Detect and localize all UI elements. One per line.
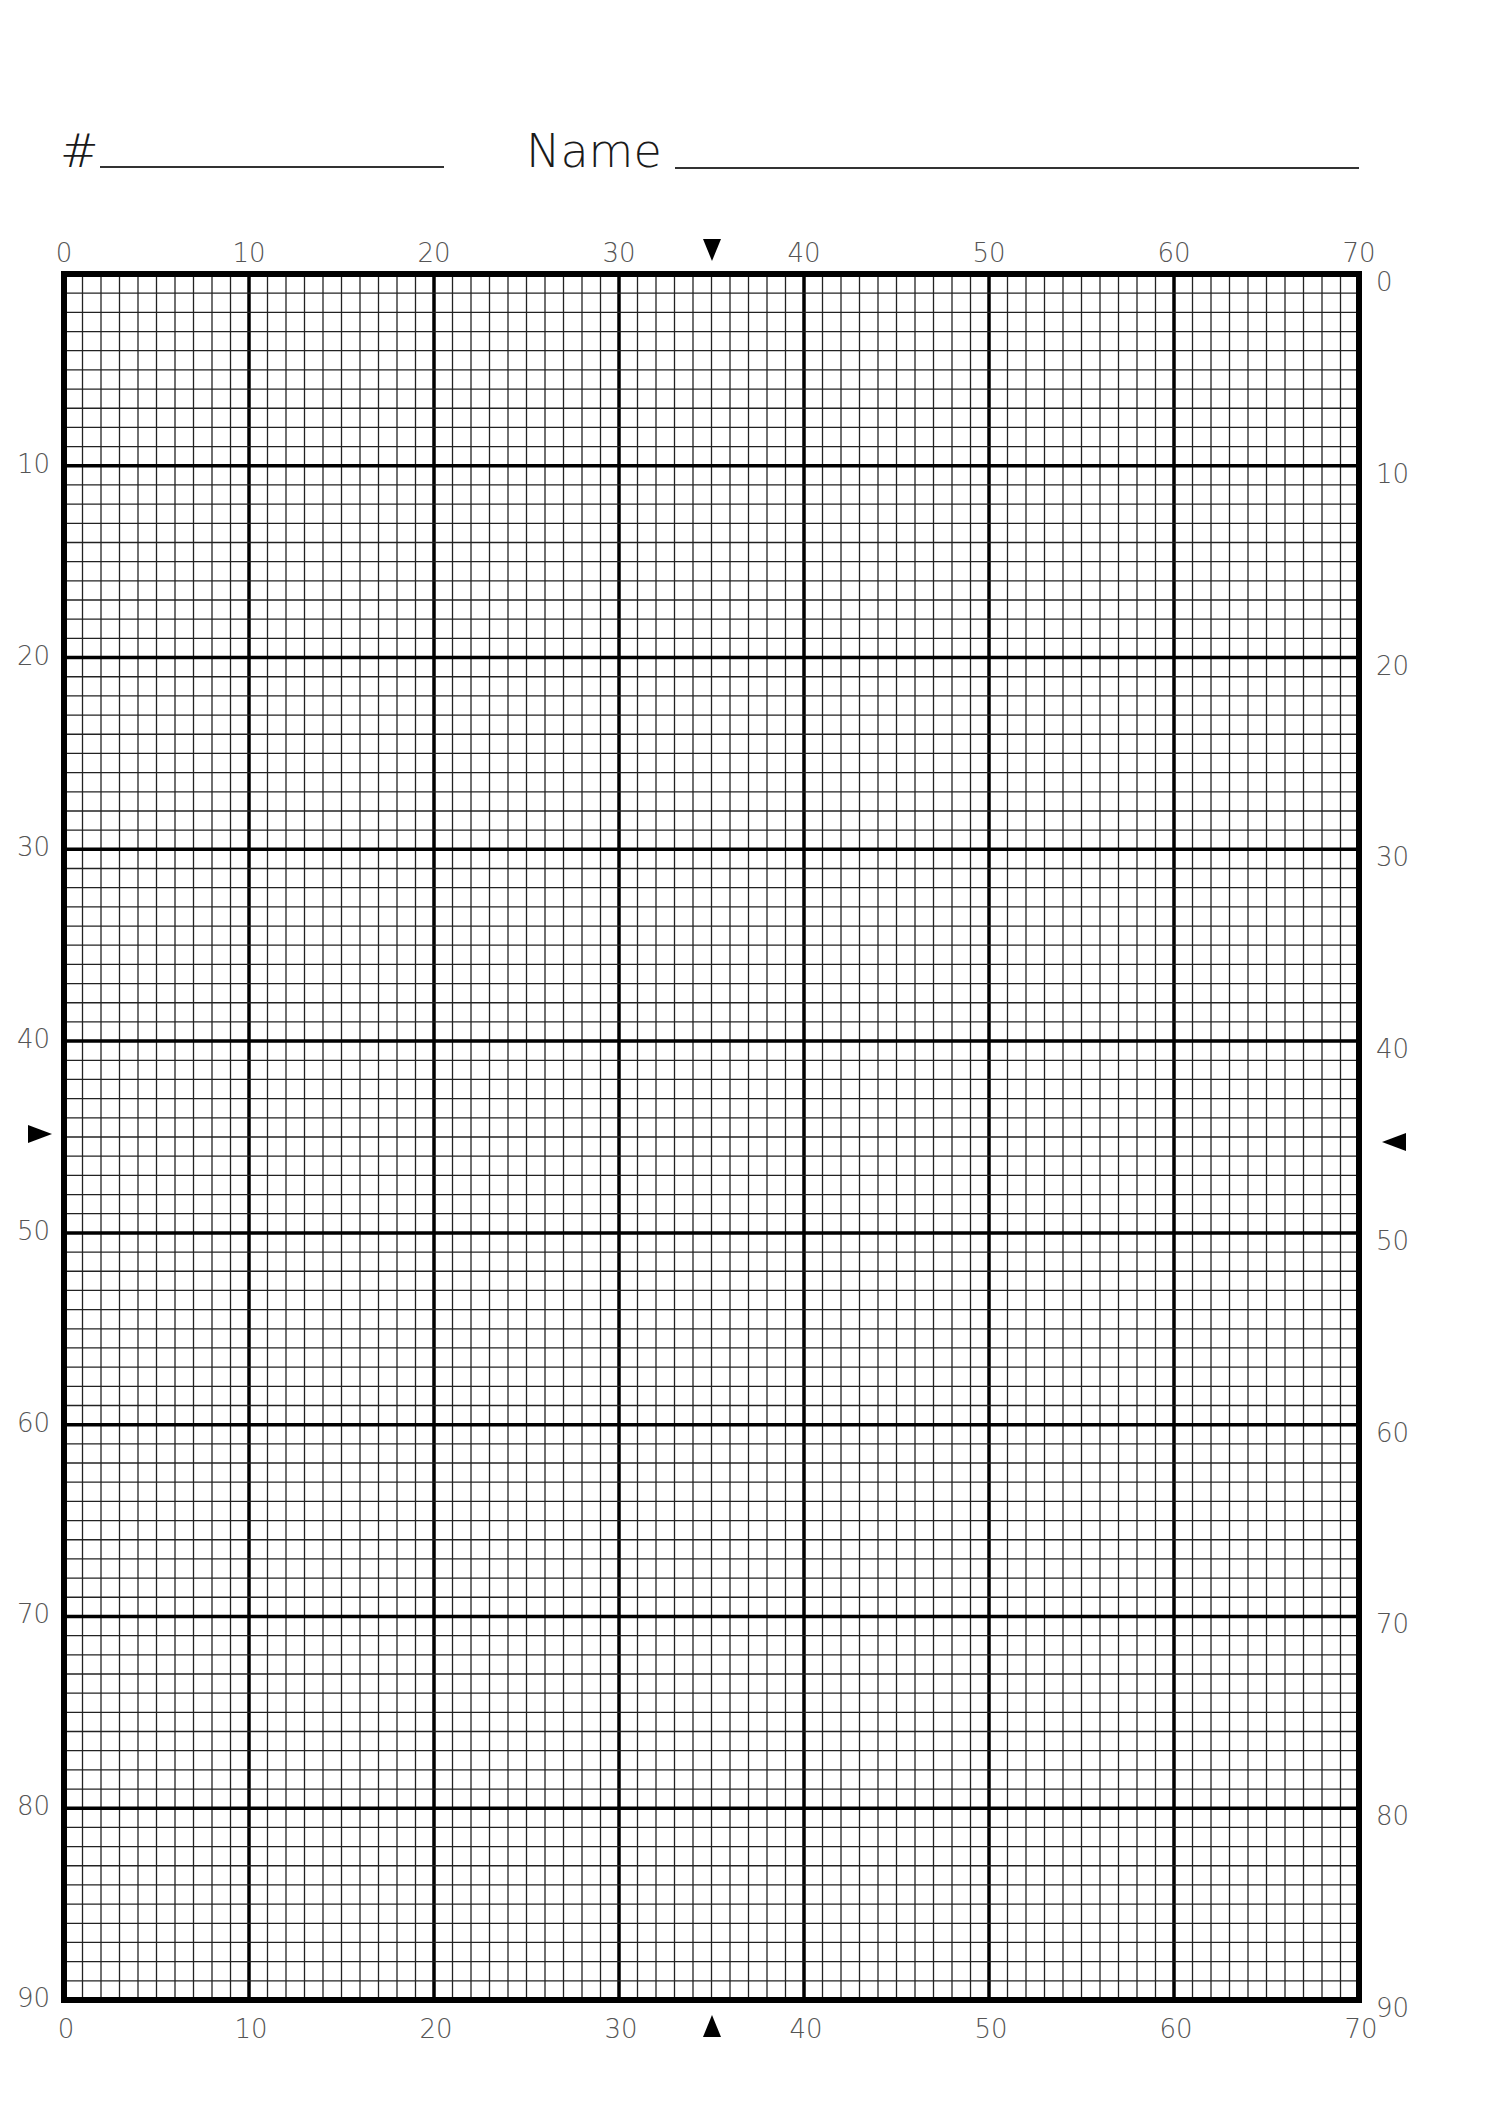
right-axis-label: 40 bbox=[1376, 1036, 1409, 1062]
top-axis-label: 50 bbox=[972, 240, 1005, 266]
top-axis-label: 40 bbox=[787, 240, 820, 266]
right-axis-label: 80 bbox=[1376, 1803, 1409, 1829]
right-axis-label: 10 bbox=[1376, 461, 1409, 487]
right-axis-label: 70 bbox=[1376, 1611, 1409, 1637]
bottom-axis-label: 70 bbox=[1344, 2016, 1377, 2042]
right-axis-label: 50 bbox=[1376, 1228, 1409, 1254]
right-axis-label: 90 bbox=[1376, 1995, 1409, 2021]
right-center-marker-icon bbox=[1382, 1133, 1406, 1151]
left-axis-label: 10 bbox=[0, 451, 50, 477]
left-axis-label: 30 bbox=[0, 834, 50, 860]
top-axis-label: 0 bbox=[56, 240, 73, 266]
bottom-axis-label: 20 bbox=[419, 2016, 452, 2042]
left-axis-label: 50 bbox=[0, 1218, 50, 1244]
left-axis-label: 70 bbox=[0, 1601, 50, 1627]
right-axis-label: 20 bbox=[1376, 653, 1409, 679]
top-axis-label: 20 bbox=[417, 240, 450, 266]
bottom-axis-label: 30 bbox=[604, 2016, 637, 2042]
left-axis-label: 40 bbox=[0, 1026, 50, 1052]
top-axis-label: 30 bbox=[602, 240, 635, 266]
bottom-center-marker-icon bbox=[703, 2015, 721, 2037]
left-axis-label: 20 bbox=[0, 643, 50, 669]
bottom-axis-label: 10 bbox=[234, 2016, 267, 2042]
right-axis-label: 60 bbox=[1376, 1420, 1409, 1446]
left-axis-label: 90 bbox=[0, 1985, 50, 2011]
left-axis-label: 60 bbox=[0, 1410, 50, 1436]
bottom-axis-label: 60 bbox=[1159, 2016, 1192, 2042]
left-center-marker-icon bbox=[28, 1125, 52, 1143]
bottom-axis-label: 50 bbox=[974, 2016, 1007, 2042]
right-axis-label: 30 bbox=[1376, 844, 1409, 870]
top-center-marker-icon bbox=[703, 239, 721, 261]
top-axis-label: 60 bbox=[1157, 240, 1190, 266]
bottom-axis-label: 40 bbox=[789, 2016, 822, 2042]
right-axis-label: 0 bbox=[1376, 269, 1393, 295]
top-axis-label: 70 bbox=[1342, 240, 1375, 266]
graph-paper-grid bbox=[0, 0, 1495, 2124]
left-axis-label: 80 bbox=[0, 1793, 50, 1819]
top-axis-label: 10 bbox=[232, 240, 265, 266]
bottom-axis-label: 0 bbox=[58, 2016, 75, 2042]
